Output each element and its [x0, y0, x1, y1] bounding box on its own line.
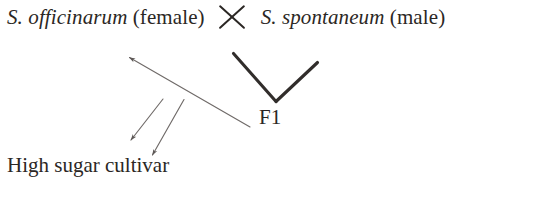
high-sugar-cultivar-label: High sugar cultivar — [7, 152, 207, 179]
short-arrow-two — [153, 100, 185, 156]
breeding-cross-figure: S. officinarum (female)S. spontaneum (ma… — [0, 0, 537, 221]
f1-generation-label: F1 — [259, 107, 281, 128]
short-arrow-one — [131, 99, 163, 140]
long-backcross-arrow — [130, 58, 251, 128]
v-left-arm — [234, 54, 277, 102]
v-right-arm — [276, 63, 318, 102]
